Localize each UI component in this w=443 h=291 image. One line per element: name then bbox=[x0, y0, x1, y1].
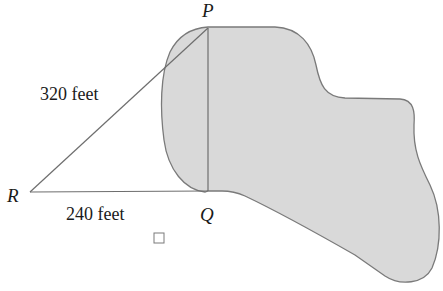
length-label-rq: 240 feet bbox=[66, 204, 124, 224]
answer-checkbox[interactable] bbox=[154, 233, 164, 243]
shaded-region bbox=[162, 27, 440, 282]
side-rq bbox=[30, 191, 208, 192]
length-label-rp: 320 feet bbox=[40, 84, 98, 104]
vertex-label-r: R bbox=[6, 185, 19, 206]
vertex-label-q: Q bbox=[200, 204, 214, 225]
triangle-diagram: P Q R 320 feet 240 feet bbox=[0, 0, 443, 291]
vertex-label-p: P bbox=[201, 0, 214, 21]
